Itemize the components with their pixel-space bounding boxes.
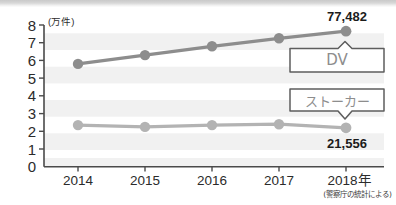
y-axis-tick-labels: 8 7 6 5 4 3 2 1 0: [28, 17, 36, 176]
x-tick-label-2016: 2016: [197, 173, 227, 188]
y-tick-label: 1: [28, 141, 36, 158]
line-chart: 8 7 6 5 4 3 2 1 0 (万件) 2014 2015 2016 20…: [0, 0, 396, 205]
data-point-stalker-2014: [73, 120, 83, 130]
x-tick-label-2017: 2017: [264, 173, 294, 188]
x-tick-label-2015: 2015: [130, 173, 160, 188]
y-tick-label: 8: [28, 17, 36, 34]
y-tick-label: 2: [28, 123, 36, 140]
series-line-stalker: [73, 119, 352, 133]
value-label-dv-2018: 77,482: [327, 9, 367, 24]
x-axis-tick-labels: 2014 2015 2016 2017 2018年: [63, 173, 371, 188]
data-point-dv-2014: [73, 59, 83, 69]
data-point-stalker-2017: [274, 119, 284, 129]
x-tick-label-2014: 2014: [63, 173, 94, 188]
data-point-dv-2017: [274, 33, 284, 43]
data-point-dv-2015: [140, 50, 150, 60]
y-tick-label: 3: [28, 105, 36, 122]
y-tick-label: 7: [28, 34, 36, 51]
y-tick-label: 6: [28, 52, 36, 69]
source-note: (警察庁の統計による): [323, 189, 392, 199]
x-tick-label-2018: 2018年: [327, 173, 370, 188]
chart-figure: 8 7 6 5 4 3 2 1 0 (万件) 2014 2015 2016 20…: [0, 0, 396, 205]
data-point-dv-2018: [341, 26, 352, 37]
data-point-dv-2016: [207, 41, 217, 51]
data-point-stalker-2016: [207, 120, 217, 130]
y-axis-unit-label: (万件): [48, 16, 74, 27]
callout-dv-label: DV: [326, 51, 348, 69]
y-tick-label: 0: [28, 158, 36, 175]
data-point-stalker-2018: [341, 122, 352, 133]
value-label-stalker-2018: 21,556: [327, 136, 367, 151]
data-point-stalker-2015: [140, 122, 150, 132]
y-tick-label: 5: [28, 70, 36, 87]
callout-stalker-label: ストーカー: [305, 94, 370, 109]
y-tick-label: 4: [28, 87, 36, 104]
